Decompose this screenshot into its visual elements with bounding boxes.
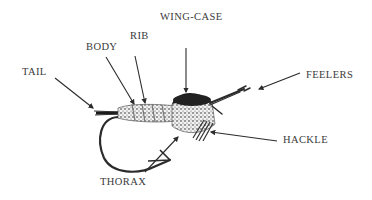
arrow-rib (135, 56, 145, 103)
arrow-feelers (259, 73, 300, 89)
arrow-body (106, 57, 134, 104)
feelers (210, 86, 250, 114)
fly-illustration (0, 0, 372, 200)
label-tail: TAIL (22, 67, 47, 78)
label-body: BODY (86, 42, 117, 53)
body (118, 104, 176, 122)
label-feelers: FEELERS (306, 70, 353, 81)
label-wing-case: WING-CASE (160, 12, 223, 23)
label-rib: RIB (130, 31, 149, 42)
arrow-tail (55, 78, 93, 108)
label-hackle: HACKLE (283, 135, 328, 146)
label-thorax: THORAX (100, 177, 146, 188)
arrow-thorax (145, 137, 178, 172)
arrow-hackle (211, 132, 277, 141)
fly-anatomy-diagram: TAIL BODY RIB WING-CASE FEELERS HACKLE T… (0, 0, 372, 200)
